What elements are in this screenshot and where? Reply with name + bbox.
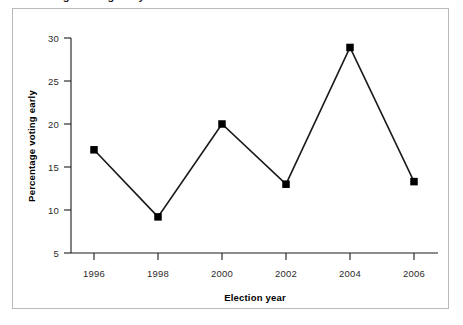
data-series-line bbox=[94, 47, 414, 216]
x-tick-label-2004: 2004 bbox=[339, 268, 361, 279]
data-point-markers bbox=[90, 44, 418, 221]
chart-plot-area: 30 25 20 15 10 5 1996 1998 2000 bbox=[13, 9, 450, 310]
caption-remnant-text: Percentage voting early bbox=[14, 0, 145, 2]
data-point-1996 bbox=[90, 146, 98, 154]
data-point-1998 bbox=[154, 213, 162, 221]
x-tick-label-1998: 1998 bbox=[147, 268, 169, 279]
y-axis-title: Percentage voting early bbox=[26, 90, 37, 202]
data-point-2006 bbox=[410, 178, 418, 186]
y-tick-label-30: 30 bbox=[48, 33, 59, 44]
data-point-2004 bbox=[346, 44, 354, 52]
x-tick-label-2002: 2002 bbox=[275, 268, 297, 279]
y-tick-label-10: 10 bbox=[48, 205, 59, 216]
x-tick-label-2000: 2000 bbox=[211, 268, 233, 279]
y-tick-label-15: 15 bbox=[48, 162, 59, 173]
x-tick-label-1996: 1996 bbox=[83, 268, 105, 279]
x-tick-label-2006: 2006 bbox=[403, 268, 425, 279]
x-axis-ticks bbox=[94, 253, 414, 260]
figure-frame: 30 25 20 15 10 5 1996 1998 2000 bbox=[12, 8, 449, 309]
x-axis-tick-labels: 1996 1998 2000 2002 2004 2006 bbox=[83, 268, 425, 279]
y-axis-tick-labels: 30 25 20 15 10 5 bbox=[48, 33, 59, 259]
x-axis-title: Election year bbox=[224, 292, 286, 303]
line-chart: 30 25 20 15 10 5 1996 1998 2000 bbox=[13, 9, 450, 310]
y-axis-ticks bbox=[64, 38, 71, 253]
data-point-2002 bbox=[282, 180, 290, 188]
y-tick-label-20: 20 bbox=[48, 119, 59, 130]
data-point-2000 bbox=[218, 120, 226, 128]
y-tick-label-5: 5 bbox=[54, 248, 59, 259]
cut-off-caption-remnant: Percentage voting early bbox=[0, 0, 463, 5]
y-tick-label-25: 25 bbox=[48, 76, 59, 87]
